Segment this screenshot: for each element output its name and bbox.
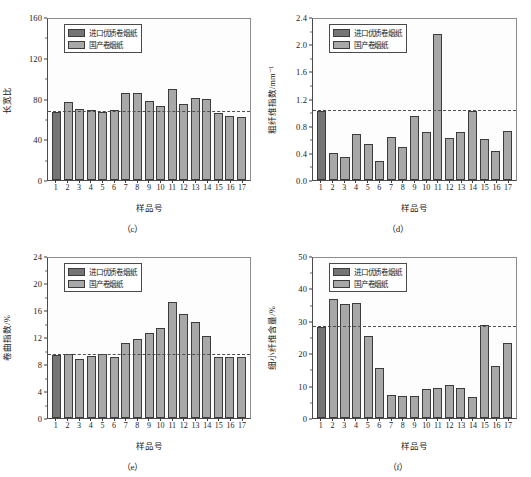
legend-label: 进口优质卷烟纸 xyxy=(89,266,137,277)
x-tick-label: 12 xyxy=(178,421,190,430)
bar-sample-4 xyxy=(352,134,361,180)
y-axis-label-e: 卷曲指数/% xyxy=(0,283,12,393)
bar-sample-6 xyxy=(110,357,119,418)
bar-sample-11 xyxy=(433,388,442,418)
legend-label: 进口优质卷烟纸 xyxy=(354,266,402,277)
bar-cell xyxy=(155,258,167,418)
x-tick-label: 5 xyxy=(362,183,374,192)
bar-cell xyxy=(51,19,63,180)
x-tick-label: 2 xyxy=(327,421,339,430)
bar-cell xyxy=(478,19,490,180)
bar-sample-17 xyxy=(237,117,246,180)
y-tick-label: 1.6 xyxy=(296,67,307,77)
x-tick-label: 7 xyxy=(120,183,132,192)
bar-sample-16 xyxy=(225,357,234,418)
y-tick-label: 0.0 xyxy=(296,176,307,186)
x-tick-label: 4 xyxy=(350,183,362,192)
bar-sample-1 xyxy=(52,355,61,418)
x-tick-label: 6 xyxy=(374,421,386,430)
bar-sample-13 xyxy=(191,322,200,418)
y-tick-label: 40 xyxy=(33,135,42,145)
bar-cell xyxy=(143,258,155,418)
x-tick-label: 8 xyxy=(397,421,409,430)
x-tick-label: 6 xyxy=(108,421,120,430)
bar-sample-4 xyxy=(352,303,361,418)
legend-item-domestic: 国产卷烟纸 xyxy=(68,39,137,50)
bar-sample-2 xyxy=(64,354,73,418)
bar-cell xyxy=(420,258,432,418)
bar-sample-17 xyxy=(237,357,246,418)
x-axis-e: 1234567891011121314151617 xyxy=(47,421,251,437)
x-tick-label: 7 xyxy=(120,421,132,430)
bar-sample-2 xyxy=(64,102,73,180)
x-tick-label: 12 xyxy=(178,183,190,192)
x-tick-label: 13 xyxy=(455,421,467,430)
bar-sample-2 xyxy=(329,153,338,181)
x-tick-label: 3 xyxy=(73,421,85,430)
bar-cell xyxy=(236,19,248,180)
bar-cell xyxy=(409,19,421,180)
bar-sample-3 xyxy=(75,359,84,418)
y-axis-d: 0.00.40.81.21.62.02.4粗纤维指数/mm⁻¹ xyxy=(265,18,312,181)
bar-sample-16 xyxy=(225,116,234,180)
bar-cell xyxy=(455,258,467,418)
x-tick-label: 10 xyxy=(420,183,432,192)
bar-sample-10 xyxy=(156,328,165,418)
legend-swatch-icon xyxy=(68,268,85,276)
x-tick-label: 10 xyxy=(155,421,167,430)
x-tick-label: 5 xyxy=(362,421,374,430)
bar-cell xyxy=(224,19,236,180)
x-tick-label: 17 xyxy=(236,183,248,192)
bar-cell xyxy=(189,19,201,180)
legend-label: 国产卷烟纸 xyxy=(89,39,123,50)
legend-item-imported: 进口优质卷烟纸 xyxy=(68,266,137,277)
x-tick-label: 9 xyxy=(143,183,155,192)
bar-sample-14 xyxy=(468,397,477,418)
x-tick-label: 17 xyxy=(236,421,248,430)
bar-sample-15 xyxy=(480,325,489,418)
legend-label: 国产卷烟纸 xyxy=(354,39,388,50)
x-tick-label: 9 xyxy=(409,421,421,430)
bar-sample-1 xyxy=(317,327,326,418)
y-tick-label: 0.4 xyxy=(296,149,307,159)
y-tick-label: 4 xyxy=(38,387,42,397)
bar-cell xyxy=(143,19,155,180)
x-tick-label: 1 xyxy=(315,183,327,192)
y-tick-label: 10 xyxy=(298,382,307,392)
legend-swatch-icon xyxy=(333,280,350,288)
x-tick-label: 13 xyxy=(455,183,467,192)
legend-label: 进口优质卷烟纸 xyxy=(89,27,137,38)
bar-cell xyxy=(224,258,236,418)
x-tick-label: 16 xyxy=(491,421,503,430)
bar-sample-5 xyxy=(364,336,373,418)
x-tick-label: 8 xyxy=(131,421,143,430)
x-tick-label: 4 xyxy=(350,421,362,430)
x-tick-label: 2 xyxy=(62,183,74,192)
x-tick-label: 1 xyxy=(50,183,62,192)
reference-dashed-line-f xyxy=(313,326,516,327)
bar-cell xyxy=(502,19,514,180)
x-tick-label: 11 xyxy=(166,421,178,430)
x-tick-label: 13 xyxy=(190,183,202,192)
x-tick-label: 8 xyxy=(131,183,143,192)
panel-c: 04080120160长宽比进口优质卷烟纸国产卷烟纸12345678910111… xyxy=(0,0,265,239)
bar-sample-6 xyxy=(375,161,384,180)
y-tick-label: 24 xyxy=(33,252,42,262)
bar-sample-10 xyxy=(422,132,431,180)
y-tick-label: 2.4 xyxy=(296,13,307,23)
bar-cell xyxy=(316,19,328,180)
bar-sample-16 xyxy=(491,366,500,418)
bar-cell xyxy=(467,258,479,418)
bar-cell xyxy=(166,19,178,180)
bar-cell xyxy=(444,19,456,180)
bar-sample-2 xyxy=(329,299,338,418)
bar-cell xyxy=(51,258,63,418)
y-tick-label: 0 xyxy=(303,414,307,424)
bar-sample-3 xyxy=(75,109,84,180)
bar-sample-10 xyxy=(422,389,431,418)
bar-cell xyxy=(432,19,444,180)
x-tick-label: 12 xyxy=(444,183,456,192)
bar-cell xyxy=(502,258,514,418)
legend-swatch-icon xyxy=(68,29,85,37)
y-axis-label-f: 细小纤维含量/% xyxy=(265,283,277,393)
